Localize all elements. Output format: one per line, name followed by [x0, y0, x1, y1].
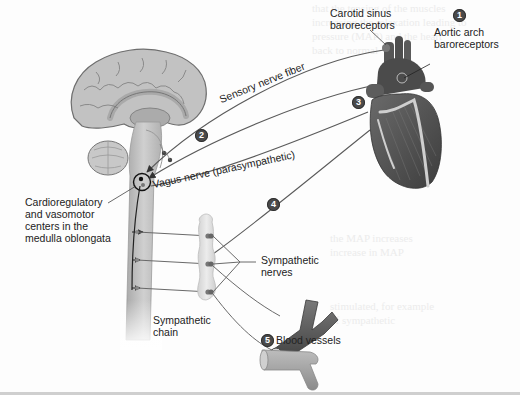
- carotid-leader-line: [370, 30, 386, 45]
- label-line: Cardioregulatory: [25, 196, 111, 208]
- blood-vessel-light: [260, 350, 318, 390]
- step-badge-4: 4: [267, 198, 280, 211]
- heart: [366, 36, 441, 188]
- label-line: chain: [153, 326, 211, 338]
- label-line: nerves: [261, 266, 319, 278]
- step-badge-5: 5: [261, 334, 274, 347]
- step-badge-3: 3: [352, 96, 365, 109]
- label-line: baroreceptors: [330, 19, 395, 31]
- label-line: Carotid sinus: [330, 7, 395, 19]
- cerebellum: [88, 141, 128, 175]
- label-line: Sympathetic: [153, 314, 211, 326]
- label-line: centers in the: [25, 220, 111, 232]
- label-cardioregulatory-centers: Cardioregulatory and vasomotor centers i…: [25, 196, 111, 244]
- label-line: medulla oblongata: [25, 232, 111, 244]
- label-line: Aortic arch: [434, 26, 499, 38]
- label-carotid-sinus-baroreceptors: Carotid sinus baroreceptors: [330, 7, 395, 31]
- label-blood-vessels: Blood vessels: [276, 334, 341, 346]
- label-sympathetic-chain: Sympathetic chain: [153, 314, 211, 338]
- diagram-canvas: that the tensing of the muscles increasi…: [0, 0, 520, 395]
- step-badge-1: 1: [453, 9, 466, 22]
- label-line: and vasomotor: [25, 208, 111, 220]
- step-badge-2: 2: [195, 129, 208, 142]
- brain: [71, 49, 206, 128]
- sympathetic-chain: [198, 214, 216, 300]
- label-aortic-arch-baroreceptors: Aortic arch baroreceptors: [434, 26, 499, 50]
- label-sympathetic-nerves: Sympathetic nerves: [261, 254, 319, 278]
- label-line: baroreceptors: [434, 38, 499, 50]
- label-line: Sympathetic: [261, 254, 319, 266]
